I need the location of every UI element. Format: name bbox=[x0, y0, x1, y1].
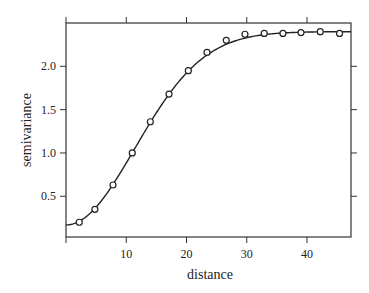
y-tick-label: 0.5 bbox=[41, 189, 56, 203]
data-points bbox=[76, 29, 342, 226]
semivariogram-chart: 10203040 0.51.01.52.0 distance semivaria… bbox=[0, 0, 369, 293]
x-axis-ticks: 10203040 bbox=[66, 17, 313, 261]
x-tick-label: 40 bbox=[301, 247, 313, 261]
data-point bbox=[223, 37, 229, 43]
data-point bbox=[147, 119, 153, 125]
y-axis-ticks: 0.51.01.52.0 bbox=[41, 59, 357, 203]
data-point bbox=[242, 31, 248, 37]
data-point bbox=[261, 30, 267, 36]
x-tick-label: 20 bbox=[181, 247, 193, 261]
fitted-model-curve bbox=[66, 32, 351, 225]
data-point bbox=[185, 68, 191, 74]
y-tick-label: 1.5 bbox=[41, 103, 56, 117]
data-point bbox=[280, 30, 286, 36]
data-point bbox=[92, 206, 98, 212]
data-point bbox=[337, 30, 343, 36]
data-point bbox=[298, 30, 304, 36]
x-tick-label: 30 bbox=[241, 247, 253, 261]
data-point bbox=[166, 91, 172, 97]
data-point bbox=[110, 182, 116, 188]
y-tick-label: 2.0 bbox=[41, 59, 56, 73]
y-axis-title: semivariance bbox=[19, 93, 34, 167]
x-axis-title: distance bbox=[187, 267, 233, 282]
data-point bbox=[129, 150, 135, 156]
data-point bbox=[317, 29, 323, 35]
y-tick-label: 1.0 bbox=[41, 146, 56, 160]
data-point bbox=[76, 219, 82, 225]
data-point bbox=[204, 49, 210, 55]
x-tick-label: 10 bbox=[120, 247, 132, 261]
